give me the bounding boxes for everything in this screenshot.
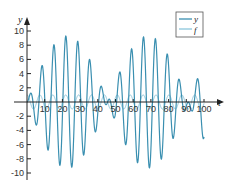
chart: 102030405060708090100 t 108642-2-4-6-8-1… xyxy=(0,0,233,188)
x-tick-label: 50 xyxy=(110,104,120,114)
x-tick-label: 10 xyxy=(40,104,50,114)
x-axis-label: t xyxy=(218,97,221,108)
y-tick-label: 2 xyxy=(19,83,24,93)
y-tick-label: -8 xyxy=(16,154,24,164)
y-axis-label: y xyxy=(17,14,23,25)
y-tick-label: -2 xyxy=(16,111,24,121)
x-tick-label: 20 xyxy=(57,104,67,114)
y-tick-label: 6 xyxy=(19,54,24,64)
legend: y f xyxy=(176,12,203,37)
y-tick-label: -10 xyxy=(11,168,24,178)
y-tick-label: 4 xyxy=(19,69,24,79)
x-tick-label: 80 xyxy=(164,104,174,114)
y-tick-label: -4 xyxy=(16,125,24,135)
x-tick-label: 60 xyxy=(128,104,138,114)
y-tick-label: -6 xyxy=(16,140,24,150)
x-tick-label: 30 xyxy=(75,104,85,114)
y-tick-label: 8 xyxy=(19,40,24,50)
y-axis-arrow-icon xyxy=(24,17,30,25)
y-axis: 108642-2-4-6-8-10 y xyxy=(11,14,31,180)
x-tick-label: 100 xyxy=(196,104,211,114)
y-tick-label: 10 xyxy=(14,26,24,36)
x-tick-label: 70 xyxy=(146,104,156,114)
x-tick-label: 90 xyxy=(181,104,191,114)
legend-label-y: y xyxy=(193,14,198,24)
x-tick-label: 40 xyxy=(93,104,103,114)
